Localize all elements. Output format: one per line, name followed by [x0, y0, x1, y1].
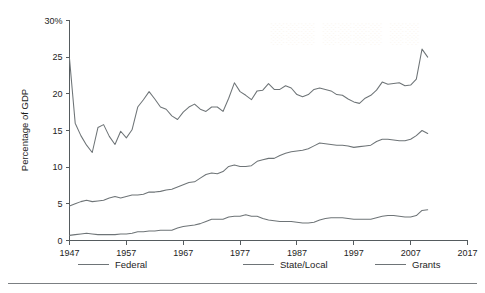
watermark-text: ░░░ ░░░░ ░░: [270, 22, 420, 45]
line-chart: ░░░ ░░░░ ░░ 051015202530% 19471957196719…: [0, 0, 485, 293]
x-tick-label: 1977: [230, 248, 250, 258]
y-tick-label: 5: [57, 199, 62, 209]
x-tick-label: 2017: [457, 248, 477, 258]
chart-figure: ░░░ ░░░░ ░░ 051015202530% 19471957196719…: [0, 0, 485, 293]
x-tick-label: 1947: [59, 248, 79, 258]
y-tick-label: 0: [57, 236, 62, 246]
legend-label-state-local: State/Local: [280, 259, 328, 270]
legend-label-federal: Federal: [115, 259, 147, 270]
x-tick-label: 1997: [344, 248, 364, 258]
y-tick-label: 10: [52, 162, 62, 172]
y-tick-label: 30%: [44, 16, 62, 26]
x-tick-label: 2007: [401, 248, 421, 258]
x-tick-label: 1987: [287, 248, 307, 258]
x-tick-label: 1957: [116, 248, 136, 258]
y-tick-label: 15: [52, 126, 62, 136]
x-tick-label: 1967: [173, 248, 193, 258]
y-axis-title: Percentage of GDP: [19, 89, 30, 171]
y-tick-label: 20: [52, 89, 62, 99]
y-tick-label: 25: [52, 52, 62, 62]
legend-label-grants: Grants: [412, 259, 441, 270]
watermark: ░░░ ░░░░ ░░: [270, 22, 420, 45]
